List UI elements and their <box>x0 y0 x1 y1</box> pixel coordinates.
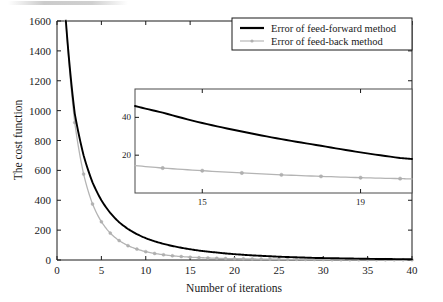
data-point-marker <box>100 220 103 223</box>
inset-y-tick-label: 20 <box>122 150 132 160</box>
x-tick-label: 20 <box>229 264 241 276</box>
inset-y-tick-label: 40 <box>122 112 132 122</box>
data-point-marker <box>215 257 218 260</box>
data-point-marker <box>198 256 201 259</box>
inset-data-point-marker <box>280 173 283 176</box>
data-point-marker <box>233 257 236 260</box>
x-tick-label: 30 <box>318 264 330 276</box>
x-tick-label: 35 <box>362 264 374 276</box>
data-point-marker <box>180 255 183 258</box>
data-point-marker <box>206 256 209 259</box>
x-tick-label: 40 <box>407 264 419 276</box>
y-tick-label: 1000 <box>29 105 52 117</box>
x-axis-label: Number of iterations <box>186 282 282 294</box>
data-point-marker <box>162 253 165 256</box>
legend-swatch-marker-feed-back <box>250 39 253 42</box>
inset-data-point-marker <box>240 171 243 174</box>
data-point-marker <box>189 256 192 259</box>
inset-data-point-marker <box>359 176 362 179</box>
data-point-marker <box>171 254 174 257</box>
legend: Error of feed-forward method Error of fe… <box>232 18 412 50</box>
cost-function-line-chart: 02004006008001000120014001600 0510152025… <box>0 0 443 302</box>
inset-x-tick-label: 15 <box>198 197 208 207</box>
data-point-marker <box>82 173 85 176</box>
inset-data-point-marker <box>319 175 322 178</box>
x-tick-label: 15 <box>185 264 197 276</box>
inset-chart: 2040 1519 <box>122 89 412 207</box>
data-point-marker <box>91 202 94 205</box>
inset-data-point-marker <box>161 166 164 169</box>
figure-container: 02004006008001000120014001600 0510152025… <box>0 0 443 302</box>
data-point-marker <box>118 239 121 242</box>
data-point-marker <box>242 257 245 260</box>
data-point-marker <box>153 252 156 255</box>
inset-data-point-marker <box>201 169 204 172</box>
x-tick-label: 25 <box>273 264 285 276</box>
y-tick-label: 200 <box>35 224 52 236</box>
data-point-marker <box>295 258 298 261</box>
data-point-marker <box>277 258 280 261</box>
data-point-marker <box>135 248 138 251</box>
legend-label-feed-back: Error of feed-back method <box>271 36 383 47</box>
x-tick-label: 0 <box>54 264 60 276</box>
y-tick-label: 1600 <box>29 15 52 27</box>
data-point-marker <box>224 257 227 260</box>
data-point-marker <box>127 244 130 247</box>
y-tick-label: 1200 <box>29 75 52 87</box>
data-point-marker <box>144 250 147 253</box>
inset-data-point-marker <box>398 177 401 180</box>
y-axis-label: The cost function <box>12 100 24 181</box>
y-tick-label: 400 <box>35 194 52 206</box>
y-tick-label: 800 <box>35 135 52 147</box>
y-tick-label: 600 <box>35 164 52 176</box>
data-point-marker <box>269 258 272 261</box>
data-point-marker <box>251 257 254 260</box>
data-point-marker <box>260 258 263 261</box>
legend-label-feed-forward: Error of feed-forward method <box>271 23 397 34</box>
x-tick-label: 5 <box>99 264 105 276</box>
x-tick-label: 10 <box>140 264 152 276</box>
data-point-marker <box>286 258 289 261</box>
data-point-marker <box>109 232 112 235</box>
y-tick-label: 1400 <box>29 45 52 57</box>
y-tick-label: 0 <box>46 254 52 266</box>
inset-x-tick-label: 19 <box>356 197 366 207</box>
